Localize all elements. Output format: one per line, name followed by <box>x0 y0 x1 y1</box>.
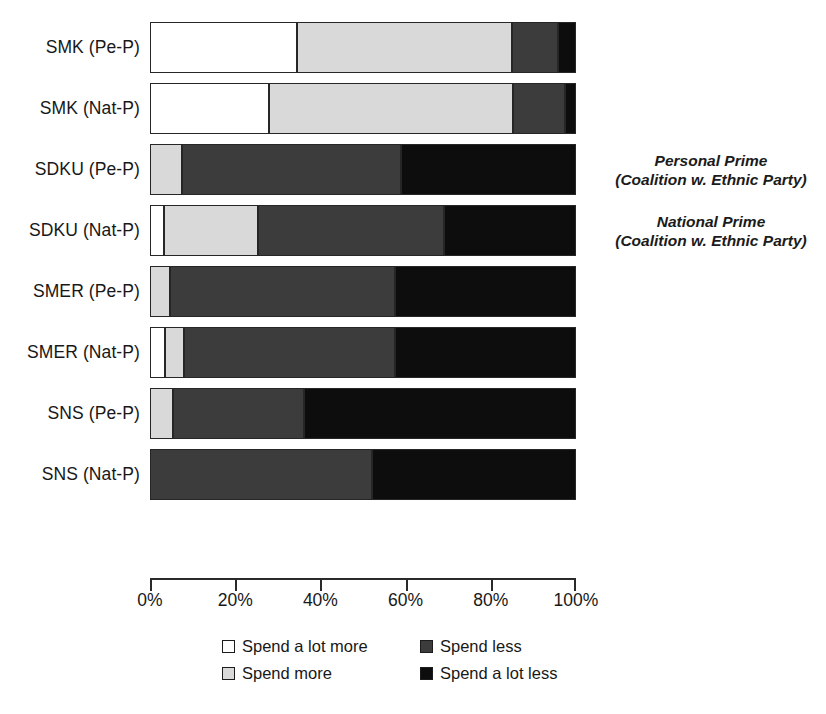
legend-swatch-icon <box>420 640 433 653</box>
legend-item[interactable]: Spend a lot less <box>420 665 557 682</box>
bar-segment <box>150 266 170 317</box>
y-axis-label: SMER (Pe-P) <box>0 283 140 301</box>
chart-annotation: National Prime(Coalition w. Ethnic Party… <box>596 212 826 250</box>
bar-row <box>150 327 576 378</box>
y-axis-label: SMK (Nat-P) <box>0 100 140 118</box>
x-axis-tick-label: 20% <box>218 592 253 610</box>
x-axis-line <box>150 578 576 580</box>
legend-swatch-icon <box>222 667 235 680</box>
bar-segment <box>395 266 576 317</box>
bar-segment <box>297 22 512 73</box>
y-axis-label: SMER (Nat-P) <box>0 344 140 362</box>
plot-area <box>150 0 576 580</box>
bar-segment <box>164 205 258 256</box>
bar-segment <box>258 205 444 256</box>
x-axis-tick-label: 100% <box>554 592 599 610</box>
bar-segment <box>512 22 558 73</box>
annotation-line: (Coalition w. Ethnic Party) <box>596 170 826 189</box>
legend-item[interactable]: Spend more <box>222 665 332 682</box>
bar-segment <box>150 327 165 378</box>
x-axis-tick-label: 0% <box>137 592 162 610</box>
legend-item[interactable]: Spend less <box>420 638 522 655</box>
bar-segment <box>184 327 395 378</box>
bar-row <box>150 388 576 439</box>
stacked-bar-chart: SMK (Pe-P)SMK (Nat-P)SDKU (Pe-P)SDKU (Na… <box>0 0 826 714</box>
bar-segment <box>165 327 184 378</box>
bar-segment <box>372 449 576 500</box>
legend-label: Spend a lot less <box>440 665 557 682</box>
bar-segment <box>444 205 576 256</box>
bar-segment <box>395 327 576 378</box>
y-axis-label: SNS (Nat-P) <box>0 466 140 484</box>
y-axis-label: SDKU (Nat-P) <box>0 222 140 240</box>
x-axis-tick-label: 60% <box>388 592 423 610</box>
bar-segment <box>269 83 513 134</box>
bar-segment <box>150 449 372 500</box>
bar-row <box>150 83 576 134</box>
bar-segment <box>150 144 182 195</box>
bar-segment <box>182 144 401 195</box>
bar-segment <box>150 205 164 256</box>
x-axis-tick-label: 40% <box>303 592 338 610</box>
legend-swatch-icon <box>420 667 433 680</box>
bar-segment <box>558 22 576 73</box>
y-axis-category-labels: SMK (Pe-P)SMK (Nat-P)SDKU (Pe-P)SDKU (Na… <box>0 0 140 580</box>
bar-segment <box>150 22 297 73</box>
bar-row <box>150 449 576 500</box>
y-axis-label: SMK (Pe-P) <box>0 39 140 57</box>
x-axis-tick-label: 80% <box>473 592 508 610</box>
y-axis-label: SNS (Pe-P) <box>0 405 140 423</box>
bar-segment <box>304 388 576 439</box>
annotation-line: (Coalition w. Ethnic Party) <box>596 231 826 250</box>
bar-segment <box>565 83 576 134</box>
legend-label: Spend a lot more <box>242 638 368 655</box>
bar-row <box>150 205 576 256</box>
legend-swatch-icon <box>222 640 235 653</box>
chart-annotation: Personal Prime(Coalition w. Ethnic Party… <box>596 151 826 189</box>
legend-label: Spend more <box>242 665 332 682</box>
annotation-line: Personal Prime <box>596 151 826 170</box>
x-axis-tick-labels: 0%20%40%60%80%100% <box>100 592 630 616</box>
bar-row <box>150 22 576 73</box>
annotation-line: National Prime <box>596 212 826 231</box>
bar-row <box>150 266 576 317</box>
bar-segment <box>513 83 565 134</box>
bar-segment <box>150 83 269 134</box>
legend-label: Spend less <box>440 638 522 655</box>
chart-legend: Spend a lot moreSpend moreSpend lessSpen… <box>222 638 622 698</box>
x-axis <box>150 578 576 592</box>
y-axis-label: SDKU (Pe-P) <box>0 161 140 179</box>
bar-row <box>150 144 576 195</box>
bar-segment <box>173 388 304 439</box>
bar-segment <box>170 266 395 317</box>
legend-item[interactable]: Spend a lot more <box>222 638 368 655</box>
bar-segment <box>401 144 576 195</box>
bar-segment <box>150 388 173 439</box>
